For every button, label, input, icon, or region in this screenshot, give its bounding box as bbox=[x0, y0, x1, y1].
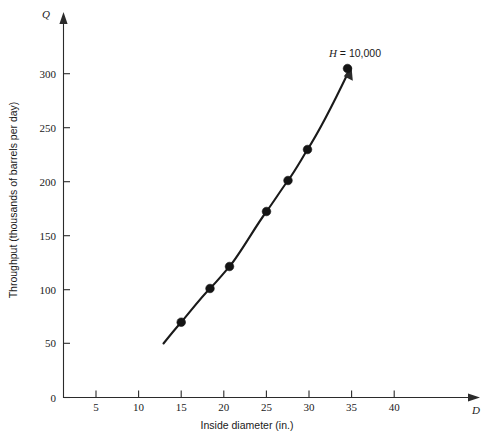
y-axis-arrow-icon bbox=[59, 12, 67, 24]
data-point bbox=[225, 262, 234, 271]
x-tick-label-10: 10 bbox=[133, 401, 145, 413]
annotation-head-label: H = 10,000 bbox=[328, 47, 381, 59]
y-axis-title: Throughput (thousands of barrels per day… bbox=[7, 102, 19, 299]
y-tick-label-50: 50 bbox=[45, 337, 57, 349]
x-axis-arrow-icon bbox=[468, 393, 480, 401]
data-point bbox=[343, 64, 352, 73]
y-tick-label-150: 150 bbox=[40, 230, 57, 242]
throughput-curve bbox=[164, 73, 349, 344]
x-axis-title: Inside diameter (in.) bbox=[201, 419, 294, 431]
chart-plot-area: Q D 0 50 100 150 200 250 300 bbox=[0, 0, 494, 435]
data-point bbox=[284, 176, 293, 185]
data-point bbox=[206, 284, 215, 293]
data-series-group bbox=[164, 64, 353, 343]
x-tick-label-5: 5 bbox=[93, 401, 99, 413]
x-tick-label-35: 35 bbox=[346, 401, 358, 413]
x-tick-label-40: 40 bbox=[389, 401, 401, 413]
annotation-value: = 10,000 bbox=[337, 47, 381, 59]
data-point bbox=[177, 318, 186, 327]
data-point bbox=[303, 145, 312, 154]
y-tick-label-300: 300 bbox=[40, 68, 57, 80]
x-tick-label-30: 30 bbox=[304, 401, 316, 413]
y-tick-label-0: 0 bbox=[51, 392, 57, 404]
x-tick-label-20: 20 bbox=[218, 401, 230, 413]
y-tick-label-100: 100 bbox=[40, 284, 57, 296]
x-axis-symbol: D bbox=[471, 404, 480, 416]
y-axis-symbol: Q bbox=[42, 8, 50, 20]
data-point bbox=[262, 207, 271, 216]
curve-annotation: H = 10,000 bbox=[328, 47, 381, 59]
x-tick-label-25: 25 bbox=[261, 401, 273, 413]
chart-figure: Q D 0 50 100 150 200 250 300 bbox=[0, 0, 494, 435]
x-tick-label-15: 15 bbox=[176, 401, 188, 413]
x-tick-group: 5 10 15 20 25 30 35 40 bbox=[93, 391, 400, 414]
y-tick-group: 0 50 100 150 200 250 300 bbox=[40, 68, 71, 404]
y-tick-label-250: 250 bbox=[40, 122, 57, 134]
y-tick-label-200: 200 bbox=[40, 176, 57, 188]
